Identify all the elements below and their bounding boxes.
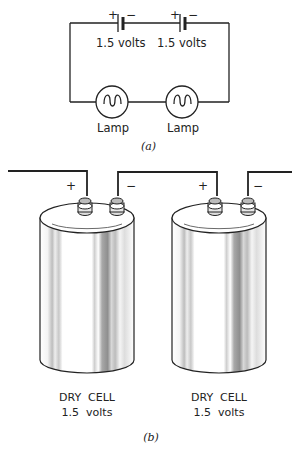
lamp-1-label: Lamp bbox=[97, 121, 129, 135]
battery-2-label: 1.5 volts bbox=[157, 36, 206, 50]
lamp-symbol-1 bbox=[96, 86, 128, 118]
cell-1-positive-terminal bbox=[78, 198, 92, 216]
lamp-symbol-2 bbox=[166, 86, 198, 118]
cell-1-negative-terminal bbox=[110, 198, 124, 216]
wires-b bbox=[8, 171, 292, 196]
battery-1-label: 1.5 volts bbox=[96, 36, 145, 50]
dry-cell-1 bbox=[40, 198, 134, 373]
battery-2-plus: + bbox=[170, 8, 180, 22]
cell-2-minus: − bbox=[253, 179, 263, 193]
battery-symbol-1 bbox=[118, 14, 123, 32]
schematic-a bbox=[70, 14, 229, 118]
cell-1-name: DRY CELL bbox=[59, 391, 116, 404]
battery-1-minus: − bbox=[126, 8, 136, 22]
cell-2-negative-terminal bbox=[241, 198, 255, 216]
circuit-diagram: + − + − 1.5 volts 1.5 volts Lamp Lamp (a… bbox=[0, 0, 296, 452]
cell-2-plus: + bbox=[198, 179, 208, 193]
battery-symbol-2 bbox=[180, 14, 185, 32]
caption-b: (b) bbox=[143, 431, 159, 444]
battery-2-minus: − bbox=[188, 8, 198, 22]
cell-1-minus: − bbox=[126, 179, 136, 193]
cell-1-voltage: 1.5 volts bbox=[62, 406, 113, 419]
cell-1-plus: + bbox=[66, 179, 76, 193]
cell-2-name: DRY CELL bbox=[191, 391, 248, 404]
cell-2-voltage: 1.5 volts bbox=[194, 406, 245, 419]
lamp-2-label: Lamp bbox=[167, 121, 199, 135]
caption-a: (a) bbox=[141, 140, 156, 153]
cell-2-positive-terminal bbox=[208, 198, 222, 216]
dry-cell-2 bbox=[172, 198, 266, 373]
battery-1-plus: + bbox=[108, 8, 118, 22]
